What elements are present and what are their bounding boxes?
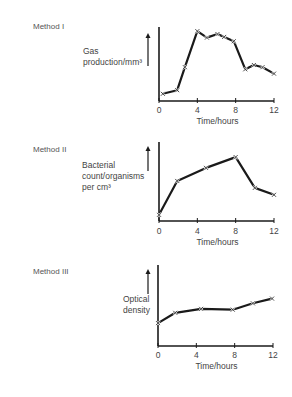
x-tick-label: 0 xyxy=(157,226,162,236)
arrow-up-icon-head xyxy=(146,146,151,151)
x-tick-label: 8 xyxy=(233,226,238,236)
arrow-up-icon-head xyxy=(146,269,151,274)
x-tick-label: 12 xyxy=(269,226,279,236)
x-tick-label: 12 xyxy=(268,350,278,360)
arrow-up-icon-head xyxy=(146,33,151,38)
x-tick-label: 4 xyxy=(195,105,200,115)
x-tick-label: 4 xyxy=(195,226,200,236)
x-tick-label: 4 xyxy=(194,350,199,360)
x-tick-label: 0 xyxy=(157,105,162,115)
data-line xyxy=(163,31,274,94)
x-axis-label: Time/hours xyxy=(196,116,238,126)
x-tick-label: 0 xyxy=(156,350,161,360)
line-chart-method-3: 04812Time/hours xyxy=(146,265,278,371)
line-chart-method-1: 04812Time/hours xyxy=(146,27,279,126)
x-tick-label: 8 xyxy=(233,105,238,115)
x-tick-label: 8 xyxy=(232,350,237,360)
charts-canvas: 04812Time/hours 04812Time/hours 04812Tim… xyxy=(0,0,292,397)
x-axis-label: Time/hours xyxy=(195,361,237,371)
line-chart-method-2: 04812Time/hours xyxy=(146,142,279,247)
x-axis-label: Time/hours xyxy=(196,237,238,247)
x-tick-label: 12 xyxy=(269,105,279,115)
